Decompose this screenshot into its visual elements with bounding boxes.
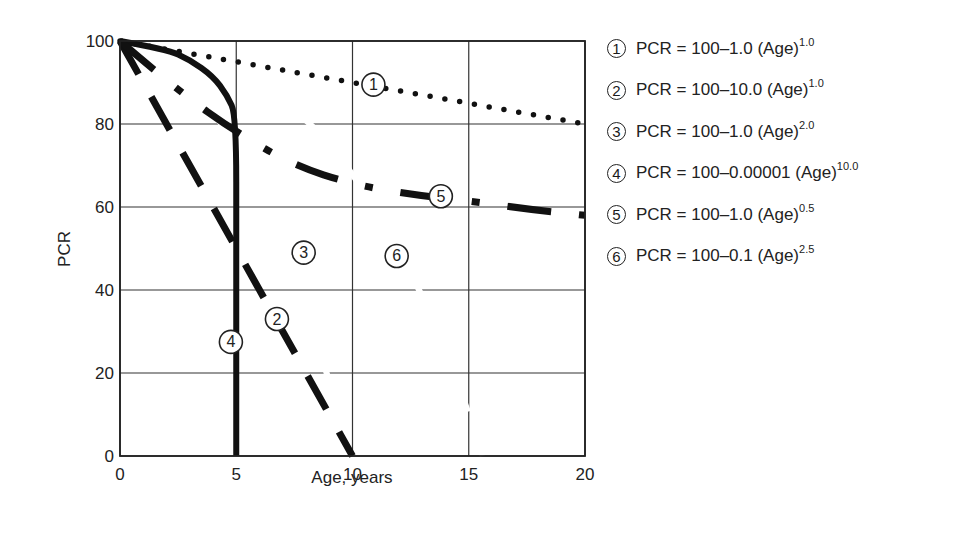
grid-lines [120, 41, 585, 456]
equation-exponent: 10.0 [837, 160, 858, 172]
legend-number-circle: 5 [607, 205, 626, 224]
legend-equation: PCR = 100–1.0 (Age)2.0 [636, 122, 814, 142]
curve-marker-2: 2 [265, 308, 288, 331]
curve-marker-4: 4 [219, 330, 242, 353]
curve-marker-3: 3 [292, 241, 315, 264]
legend-equation: PCR = 100–0.00001 (Age)10.0 [636, 163, 858, 183]
legend-item-1: 1PCR = 100–1.0 (Age)1.0 [607, 28, 858, 70]
legend-number-circle: 6 [607, 247, 626, 266]
y-tick-label: 60 [95, 198, 114, 217]
equation-exponent: 0.5 [799, 202, 814, 214]
y-tick-label: 100 [86, 32, 114, 51]
y-tick-label: 20 [95, 364, 114, 383]
legend-equation: PCR = 100–1.0 (Age)1.0 [636, 39, 814, 59]
legend-item-5: 5PCR = 100–1.0 (Age)0.5 [607, 194, 858, 236]
legend-number-circle: 4 [607, 164, 626, 183]
curve-marker-5: 5 [429, 185, 452, 208]
legend-number-circle: 1 [607, 39, 626, 58]
curve-marker-6: 6 [385, 244, 408, 267]
curve-markers: 123456 [219, 73, 452, 353]
legend: 1PCR = 100–1.0 (Age)1.02PCR = 100–10.0 (… [607, 28, 858, 277]
y-tick-label: 40 [95, 281, 114, 300]
marker-number: 2 [272, 311, 281, 328]
legend-equation: PCR = 100–10.0 (Age)1.0 [636, 80, 824, 100]
equation-exponent: 1.0 [808, 77, 823, 89]
series-line-4 [120, 41, 236, 456]
legend-equation: PCR = 100–1.0 (Age)0.5 [636, 205, 814, 225]
x-tick-label: 20 [576, 465, 595, 484]
marker-number: 3 [299, 244, 308, 261]
equation-exponent: 1.0 [799, 36, 814, 48]
legend-item-3: 3PCR = 100–1.0 (Age)2.0 [607, 111, 858, 153]
equation-base: PCR = 100–0.00001 (Age) [636, 163, 837, 182]
equation-base: PCR = 100–1.0 (Age) [636, 39, 799, 58]
marker-number: 4 [226, 333, 235, 350]
legend-item-2: 2PCR = 100–10.0 (Age)1.0 [607, 70, 858, 112]
equation-base: PCR = 100–1.0 (Age) [636, 122, 799, 141]
x-axis-label: Age, years [311, 468, 392, 487]
marker-number: 1 [369, 76, 378, 93]
equation-exponent: 2.5 [799, 243, 814, 255]
x-tick-label: 5 [232, 465, 241, 484]
legend-equation: PCR = 100–0.1 (Age)2.5 [636, 246, 814, 266]
equation-base: PCR = 100–0.1 (Age) [636, 246, 799, 265]
legend-number-circle: 2 [607, 81, 626, 100]
equation-exponent: 2.0 [799, 119, 814, 131]
marker-number: 5 [436, 188, 445, 205]
x-tick-label: 0 [115, 465, 124, 484]
y-tick-label: 80 [95, 115, 114, 134]
marker-number: 6 [392, 247, 401, 264]
equation-base: PCR = 100–1.0 (Age) [636, 205, 799, 224]
legend-item-4: 4PCR = 100–0.00001 (Age)10.0 [607, 153, 858, 195]
equation-base: PCR = 100–10.0 (Age) [636, 80, 808, 99]
curve-marker-1: 1 [362, 73, 385, 96]
legend-number-circle: 3 [607, 122, 626, 141]
x-tick-label: 15 [459, 465, 478, 484]
legend-item-6: 6PCR = 100–0.1 (Age)2.5 [607, 236, 858, 278]
y-tick-label: 0 [105, 447, 114, 466]
y-axis-label: PCR [55, 231, 74, 267]
